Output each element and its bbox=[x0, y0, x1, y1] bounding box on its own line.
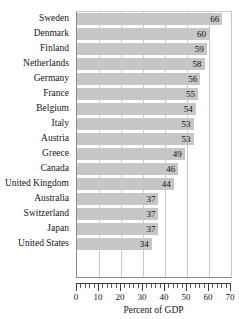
axis-tick-minor bbox=[177, 284, 178, 288]
bar-value-label: 37 bbox=[77, 193, 158, 205]
axis-tick-minor bbox=[212, 284, 213, 288]
category-label: Australia bbox=[0, 191, 73, 206]
bar-row: 37 bbox=[77, 222, 231, 237]
bar-value-label: 66 bbox=[77, 13, 222, 25]
x-tick-label: 20 bbox=[108, 292, 132, 302]
axis-tick-minor bbox=[226, 284, 227, 288]
axis-tick-major bbox=[164, 284, 165, 291]
bar-value-label: 58 bbox=[77, 58, 205, 70]
category-label: Greece bbox=[0, 146, 73, 161]
bar-value-label: 53 bbox=[77, 133, 194, 145]
bar-value-label: 49 bbox=[77, 148, 185, 160]
category-label: France bbox=[0, 86, 73, 101]
bars-layer: 66605958565554535349464437373734 bbox=[77, 12, 231, 277]
bar-row: 46 bbox=[77, 162, 231, 177]
category-label: Japan bbox=[0, 221, 73, 236]
axis-tick-minor bbox=[204, 284, 205, 288]
bar-value-label: 37 bbox=[77, 208, 158, 220]
axis-tick-major bbox=[76, 284, 77, 291]
bar-value-label: 46 bbox=[77, 163, 178, 175]
category-label: Netherlands bbox=[0, 56, 73, 71]
axis-tick-minor bbox=[199, 284, 200, 288]
bar-row: 53 bbox=[77, 117, 231, 132]
axis-tick-minor bbox=[182, 284, 183, 288]
bar-row: 44 bbox=[77, 177, 231, 192]
bar-row: 56 bbox=[77, 72, 231, 87]
category-label: United States bbox=[0, 236, 73, 251]
category-label: Belgium bbox=[0, 101, 73, 116]
bar-row: 54 bbox=[77, 102, 231, 117]
x-tick-label: 70 bbox=[218, 292, 239, 302]
axis-tick-major bbox=[208, 284, 209, 291]
bar-row: 34 bbox=[77, 237, 231, 252]
axis-tick-minor bbox=[94, 284, 95, 288]
x-tick-label: 60 bbox=[196, 292, 220, 302]
axis-tick-minor bbox=[111, 284, 112, 288]
x-tick-label: 50 bbox=[174, 292, 198, 302]
axis-tick-minor bbox=[151, 284, 152, 288]
axis-tick-minor bbox=[80, 284, 81, 288]
axis-tick-minor bbox=[146, 284, 147, 288]
axis-tick-major bbox=[120, 284, 121, 291]
axis-tick-minor bbox=[85, 284, 86, 288]
bar-row: 58 bbox=[77, 57, 231, 72]
category-label: Canada bbox=[0, 161, 73, 176]
x-axis-ticks bbox=[76, 284, 231, 292]
bar-row: 53 bbox=[77, 132, 231, 147]
axis-tick-minor bbox=[221, 284, 222, 288]
bar-value-label: 59 bbox=[77, 43, 207, 55]
axis-tick-minor bbox=[89, 284, 90, 288]
category-label: Switzerland bbox=[0, 206, 73, 221]
category-label: Sweden bbox=[0, 11, 73, 26]
bar-row: 37 bbox=[77, 192, 231, 207]
category-label: United Kingdom bbox=[0, 176, 73, 191]
axis-tick-minor bbox=[195, 284, 196, 288]
axis-tick-major bbox=[230, 284, 231, 291]
axis-tick-minor bbox=[107, 284, 108, 288]
bar-row: 37 bbox=[77, 207, 231, 222]
x-tick-label: 40 bbox=[152, 292, 176, 302]
axis-tick-minor bbox=[190, 284, 191, 288]
bar-value-label: 55 bbox=[77, 88, 198, 100]
bar-row: 59 bbox=[77, 42, 231, 57]
bar-row: 55 bbox=[77, 87, 231, 102]
x-tick-labels: 010203040506070 bbox=[76, 292, 231, 304]
axis-tick-major bbox=[186, 284, 187, 291]
bar-value-label: 60 bbox=[77, 28, 209, 40]
bar-value-label: 54 bbox=[77, 103, 196, 115]
axis-tick-minor bbox=[102, 284, 103, 288]
axis-tick-major bbox=[98, 284, 99, 291]
x-tick-label: 10 bbox=[86, 292, 110, 302]
category-label: Denmark bbox=[0, 26, 73, 41]
category-label: Finland bbox=[0, 41, 73, 56]
axis-tick-minor bbox=[129, 284, 130, 288]
axis-tick-minor bbox=[173, 284, 174, 288]
bar-value-label: 34 bbox=[77, 238, 152, 250]
x-tick-label: 30 bbox=[130, 292, 154, 302]
bar-value-label: 53 bbox=[77, 118, 194, 130]
bar-row: 49 bbox=[77, 147, 231, 162]
x-axis-title: Percent of GDP bbox=[76, 305, 231, 315]
axis-tick-minor bbox=[124, 284, 125, 288]
bar-chart: SwedenDenmarkFinlandNetherlandsGermanyFr… bbox=[0, 0, 239, 319]
axis-tick-major bbox=[142, 284, 143, 291]
plot-area: 66605958565554535349464437373734 bbox=[76, 11, 232, 278]
bar-value-label: 44 bbox=[77, 178, 174, 190]
axis-tick-minor bbox=[217, 284, 218, 288]
category-axis: SwedenDenmarkFinlandNetherlandsGermanyFr… bbox=[0, 11, 73, 251]
axis-tick-minor bbox=[155, 284, 156, 288]
bar-value-label: 37 bbox=[77, 223, 158, 235]
bar-row: 66 bbox=[77, 12, 231, 27]
bar-row: 60 bbox=[77, 27, 231, 42]
bar-value-label: 56 bbox=[77, 73, 200, 85]
axis-tick-minor bbox=[116, 284, 117, 288]
category-label: Italy bbox=[0, 116, 73, 131]
axis-tick-minor bbox=[133, 284, 134, 288]
category-label: Austria bbox=[0, 131, 73, 146]
x-tick-label: 0 bbox=[64, 292, 88, 302]
axis-tick-minor bbox=[160, 284, 161, 288]
axis-tick-minor bbox=[168, 284, 169, 288]
category-label: Germany bbox=[0, 71, 73, 86]
axis-tick-minor bbox=[138, 284, 139, 288]
